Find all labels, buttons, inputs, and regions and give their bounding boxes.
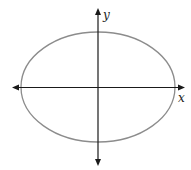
x-axis-left-arrow-icon — [12, 85, 19, 91]
x-axis-label: x — [178, 91, 185, 105]
y-axis-down-arrow-icon — [95, 159, 101, 166]
ellipse-diagram: y x — [0, 0, 191, 170]
y-axis-up-arrow-icon — [95, 8, 101, 15]
y-axis-label: y — [102, 8, 110, 22]
x-axis-right-arrow-icon — [178, 85, 185, 91]
diagram-svg: y x — [0, 0, 191, 170]
